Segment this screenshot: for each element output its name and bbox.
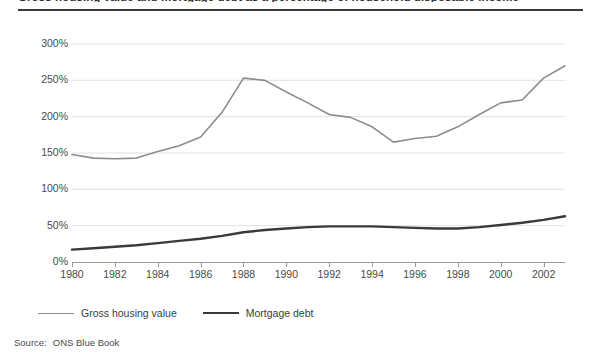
x-tick-label: 1994: [360, 268, 383, 280]
title-divider: [18, 9, 583, 11]
chart-title: Gross housing value and mortgage debt as…: [18, 0, 519, 2]
x-tick-label: 1980: [60, 268, 83, 280]
chart-legend: Gross housing valueMortgage debt: [38, 306, 339, 320]
legend-item-mortgage-debt[interactable]: Mortgage debt: [203, 307, 314, 319]
series-line-mortgage-debt: [72, 216, 565, 249]
x-tick-mark: [72, 262, 73, 267]
x-tick-mark: [544, 262, 545, 267]
y-tick-label: 150%: [6, 147, 68, 158]
legend-line-icon: [203, 312, 239, 314]
x-tick-mark: [243, 262, 244, 267]
x-axis-ticks: 1980198219841986198819901992199419961998…: [72, 262, 565, 268]
x-tick-mark: [372, 262, 373, 267]
x-tick-mark: [158, 262, 159, 267]
x-tick-label: 1992: [318, 268, 341, 280]
x-tick-mark: [286, 262, 287, 267]
plot-area: [72, 44, 565, 262]
x-tick-label: 1982: [103, 268, 126, 280]
x-tick-label: 1996: [403, 268, 426, 280]
chart-figure: Gross housing value and mortgage debt as…: [0, 0, 605, 352]
source-value: ONS Blue Book: [53, 337, 120, 348]
x-tick-mark: [501, 262, 502, 267]
x-tick-label: 2002: [532, 268, 555, 280]
x-tick-mark: [415, 262, 416, 267]
y-tick-label: 300%: [6, 38, 68, 49]
x-tick-mark: [115, 262, 116, 267]
x-tick-label: 1990: [275, 268, 298, 280]
legend-item-gross-housing-value[interactable]: Gross housing value: [38, 307, 177, 319]
y-axis-labels: 0%50%100%150%200%250%300%: [0, 44, 68, 262]
source-note: Source:ONS Blue Book: [14, 337, 119, 348]
y-tick-label: 100%: [6, 183, 68, 194]
x-tick-label: 1998: [446, 268, 469, 280]
x-tick-label: 1986: [189, 268, 212, 280]
y-tick-label: 0%: [6, 256, 68, 267]
y-tick-label: 200%: [6, 111, 68, 122]
source-label: Source:: [14, 337, 47, 348]
series-canvas: [72, 44, 565, 262]
y-tick-label: 250%: [6, 74, 68, 85]
x-tick-mark: [201, 262, 202, 267]
x-tick-label: 1984: [146, 268, 169, 280]
x-tick-label: 1988: [232, 268, 255, 280]
x-tick-mark: [329, 262, 330, 267]
legend-label: Gross housing value: [81, 307, 177, 319]
y-tick-label: 50%: [6, 220, 68, 231]
legend-line-icon: [38, 313, 74, 314]
series-line-gross-housing-value: [72, 66, 565, 159]
legend-label: Mortgage debt: [246, 307, 314, 319]
x-tick-mark: [458, 262, 459, 267]
x-tick-label: 2000: [489, 268, 512, 280]
